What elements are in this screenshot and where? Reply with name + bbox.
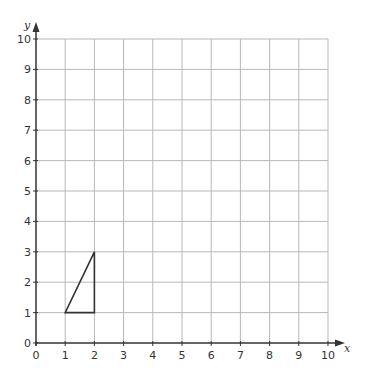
x-tick-label: 5 xyxy=(179,349,186,362)
x-tick-label: 10 xyxy=(321,349,335,362)
y-tick-label: 6 xyxy=(24,155,31,168)
x-tick-label: 4 xyxy=(149,349,156,362)
grid-lines xyxy=(36,39,328,343)
y-tick-label: 4 xyxy=(24,215,31,228)
y-tick-label: 7 xyxy=(24,124,31,137)
x-tick-label: 0 xyxy=(33,349,40,362)
x-tick-label: 2 xyxy=(91,349,98,362)
x-tick-label: 7 xyxy=(237,349,244,362)
y-tick-label: 5 xyxy=(24,185,31,198)
y-tick-label: 1 xyxy=(24,307,31,320)
x-tick-label: 9 xyxy=(295,349,302,362)
y-axis-arrow-icon xyxy=(33,22,40,32)
x-tick-label: 6 xyxy=(208,349,215,362)
y-tick-label: 8 xyxy=(24,94,31,107)
x-tick-label: 8 xyxy=(266,349,273,362)
y-tick-label: 2 xyxy=(24,276,31,289)
x-tick-label: 1 xyxy=(62,349,69,362)
x-tick-label: 3 xyxy=(120,349,127,362)
y-tick-label: 0 xyxy=(24,337,31,350)
y-axis-label: y xyxy=(23,19,31,32)
x-axis-label: x xyxy=(344,342,351,355)
y-tick-label: 10 xyxy=(17,33,31,46)
y-tick-label: 9 xyxy=(24,63,31,76)
y-tick-label: 3 xyxy=(24,246,31,259)
axes xyxy=(33,22,346,347)
coordinate-grid: 012345678910012345678910 x y xyxy=(0,0,370,375)
